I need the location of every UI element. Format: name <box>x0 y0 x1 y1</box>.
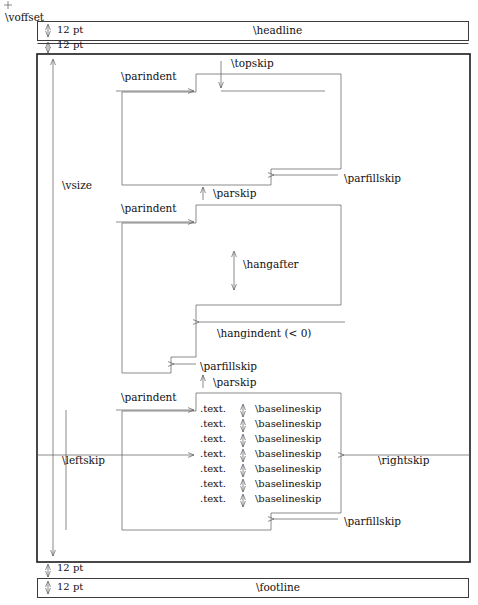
parskip-label-two: \parskip <box>213 377 256 388</box>
layout-linework <box>0 0 478 605</box>
text-line-7: .text. <box>200 494 226 504</box>
paragraph-two-outline <box>122 205 341 373</box>
headline-label: \headline <box>253 25 302 36</box>
baselineskip-label-2: \baselineskip <box>255 419 321 429</box>
baselineskip-label-4: \baselineskip <box>255 449 321 459</box>
rightskip-label: \rightskip <box>378 455 429 466</box>
topskip-label: \topskip <box>231 58 274 69</box>
parfillskip-label-three: \parfillskip <box>344 516 401 527</box>
baselineskip-label-3: \baselineskip <box>255 434 321 444</box>
baselineskip-label-7: \baselineskip <box>255 494 321 504</box>
after-headline-gap-label: 12 pt <box>57 40 83 50</box>
voffset-label: \voffset <box>5 12 44 23</box>
baselineskip-label-1: \baselineskip <box>255 404 321 414</box>
text-line-3: .text. <box>200 434 226 444</box>
diagram-canvas: \voffset 12 pt \headline 12 pt \vsize \t… <box>0 0 478 605</box>
text-line-4: .text. <box>200 449 226 459</box>
footline-gap-label: 12 pt <box>57 582 83 592</box>
text-line-5: .text. <box>200 464 226 474</box>
origin-cross-icon <box>4 1 12 9</box>
baselineskip-label-5: \baselineskip <box>255 464 321 474</box>
text-line-6: .text. <box>200 479 226 489</box>
parindent-label-two: \parindent <box>121 203 177 214</box>
parskip-label-one: \parskip <box>213 188 256 199</box>
text-line-1: .text. <box>200 404 226 414</box>
parindent-label-three: \parindent <box>121 392 177 403</box>
parfillskip-label-one: \parfillskip <box>344 173 401 184</box>
footline-label: \footline <box>256 582 300 593</box>
main-body-box <box>37 54 470 562</box>
parindent-label-one: \parindent <box>121 71 177 82</box>
before-footline-gap-label: 12 pt <box>57 563 83 573</box>
leftskip-label: \leftskip <box>62 455 105 466</box>
hangafter-label: \hangafter <box>243 259 299 270</box>
baselineskip-label-6: \baselineskip <box>255 479 321 489</box>
vsize-label: \vsize <box>62 180 92 191</box>
headline-gap-label: 12 pt <box>57 25 83 35</box>
hangindent-label: \hangindent (< 0) <box>217 328 311 339</box>
footline-box <box>38 579 469 598</box>
parfillskip-label-two: \parfillskip <box>200 361 257 372</box>
text-line-2: .text. <box>200 419 226 429</box>
